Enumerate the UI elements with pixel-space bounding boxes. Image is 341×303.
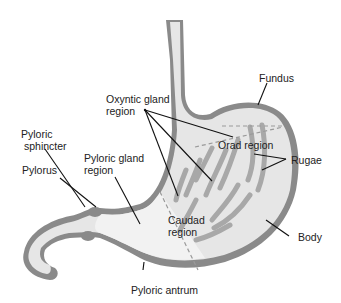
- label-pyloric-sphincter-line2: sphincter: [24, 140, 67, 152]
- pyloric-sphincter: [88, 207, 102, 217]
- label-oxyntic-line1: Oxyntic gland: [106, 93, 170, 105]
- label-pylorus: Pylorus: [22, 164, 57, 176]
- label-pyloric-gland-line2: region: [84, 164, 113, 176]
- label-caudad-line2: region: [168, 226, 197, 238]
- label-pyloric-gland-line1: Pyloric gland: [84, 152, 144, 164]
- label-fundus: Fundus: [259, 72, 294, 84]
- label-orad-region: Orad region: [218, 139, 273, 151]
- label-caudad-line1: Caudad: [168, 214, 205, 226]
- label-oxyntic-line2: region: [106, 105, 135, 117]
- label-rugae: Rugae: [291, 154, 322, 166]
- label-pyloric-sphincter-line1: Pyloric: [21, 128, 53, 140]
- arrowheads: [144, 109, 146, 111]
- label-pyloric-antrum: Pyloric antrum: [131, 284, 198, 296]
- pylorus-lower-bulge: [81, 231, 95, 241]
- label-body: Body: [298, 231, 322, 243]
